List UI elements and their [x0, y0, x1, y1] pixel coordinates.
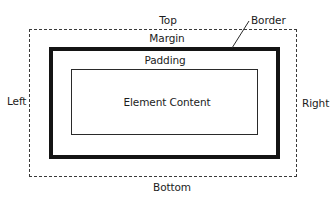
- box-model-diagram: Top Border Margin Padding Element Conten…: [0, 0, 335, 198]
- margin-label: Margin: [149, 32, 184, 44]
- padding-label: Padding: [144, 54, 185, 66]
- left-label: Left: [7, 95, 26, 107]
- top-label: Top: [159, 14, 176, 26]
- bottom-label: Bottom: [153, 181, 191, 193]
- right-label: Right: [302, 97, 329, 109]
- element-content-label: Element Content: [123, 96, 210, 108]
- border-label: Border: [251, 14, 286, 26]
